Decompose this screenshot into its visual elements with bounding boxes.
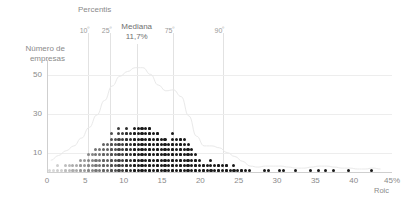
x-axis-title: Roic (374, 186, 389, 195)
data-dot (370, 169, 373, 172)
data-dot (133, 127, 136, 130)
data-dot (309, 169, 312, 172)
data-dot (144, 159, 147, 162)
y-axis-title-line1: Número de (25, 44, 65, 53)
data-dot (267, 169, 270, 172)
x-tick-25: 25 (234, 176, 243, 185)
y-tick-50: 50 (33, 70, 42, 79)
y-tick-30: 30 (33, 109, 42, 118)
data-dot (144, 153, 147, 156)
data-dot (209, 159, 212, 162)
data-dot (125, 148, 128, 151)
data-dot (156, 153, 159, 156)
data-dot (144, 127, 147, 130)
data-dot (148, 153, 151, 156)
x-axis-line (47, 172, 392, 173)
data-dot (156, 143, 159, 146)
data-dot (133, 153, 136, 156)
data-dot (125, 138, 128, 141)
data-dot (248, 169, 251, 172)
data-dot (94, 153, 97, 156)
dot-plot-area (47, 60, 392, 172)
data-dot (121, 148, 124, 151)
data-dot (282, 169, 285, 172)
x-tick-30: 30 (273, 176, 282, 185)
data-dot (152, 169, 155, 172)
data-dot (186, 159, 189, 162)
data-dot (236, 169, 239, 172)
data-dot (213, 164, 216, 167)
data-dot (175, 138, 178, 141)
data-dot (125, 127, 128, 130)
data-dot (217, 169, 220, 172)
data-dot (52, 169, 55, 172)
data-dot (194, 169, 197, 172)
data-dot (179, 138, 182, 141)
data-dot (133, 164, 136, 167)
data-dot (106, 159, 109, 162)
data-dot (79, 159, 82, 162)
data-dot (179, 143, 182, 146)
data-dot (56, 169, 59, 172)
data-dot (167, 164, 170, 167)
data-dot (152, 138, 155, 141)
data-dot (133, 138, 136, 141)
data-dot (125, 132, 128, 135)
data-dot (148, 159, 151, 162)
data-dot (209, 164, 212, 167)
y-tick-10: 10 (33, 148, 42, 157)
data-dot (179, 148, 182, 151)
data-dot (125, 169, 128, 172)
data-dot (152, 132, 155, 135)
data-dot (198, 164, 201, 167)
data-dot (144, 169, 147, 172)
data-dot (148, 138, 151, 141)
data-dot (64, 164, 67, 167)
data-dot (79, 169, 82, 172)
data-dot (167, 148, 170, 151)
data-dot (98, 164, 101, 167)
x-tick-15: 15 (158, 176, 167, 185)
data-dot (163, 138, 166, 141)
data-dot (56, 164, 59, 167)
data-dot (121, 164, 124, 167)
data-dot (106, 153, 109, 156)
data-dot (148, 164, 151, 167)
data-dot (202, 169, 205, 172)
data-dot (102, 169, 105, 172)
data-dot (175, 164, 178, 167)
data-dot (98, 153, 101, 156)
data-dot (71, 164, 74, 167)
data-dot (278, 169, 281, 172)
x-tick-45: 45% (384, 176, 400, 185)
data-dot (190, 164, 193, 167)
data-dot (156, 138, 159, 141)
data-dot (183, 143, 186, 146)
data-dot (240, 169, 243, 172)
data-dot (144, 164, 147, 167)
x-tick-5: 5 (83, 176, 87, 185)
data-dot (171, 143, 174, 146)
data-dot (175, 148, 178, 151)
data-dot (121, 159, 124, 162)
data-dot (133, 132, 136, 135)
data-dot (83, 169, 86, 172)
data-dot (232, 164, 235, 167)
data-dot (156, 159, 159, 162)
data-dot (183, 138, 186, 141)
data-dot (156, 169, 159, 172)
data-dot (347, 169, 350, 172)
data-dot (152, 143, 155, 146)
data-dot (110, 159, 113, 162)
data-dot (60, 169, 63, 172)
data-dot (198, 159, 201, 162)
data-dot (48, 169, 51, 172)
percentis-heading: Percentis (78, 5, 111, 14)
data-dot (106, 169, 109, 172)
data-dot (179, 169, 182, 172)
data-dot (171, 159, 174, 162)
data-dot (79, 164, 82, 167)
data-dot (87, 159, 90, 162)
data-dot (102, 143, 105, 146)
data-dot (148, 148, 151, 151)
